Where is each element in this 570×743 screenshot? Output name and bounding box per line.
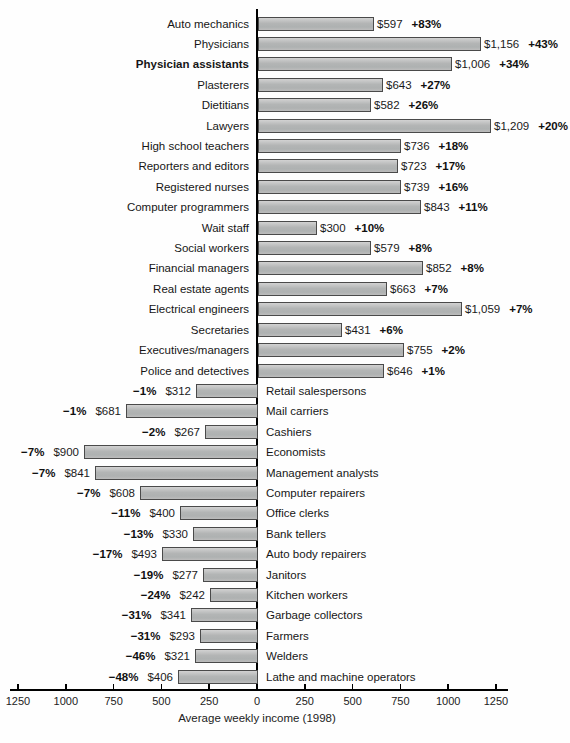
value-label: −11%$400	[111, 506, 175, 521]
income-value: $1,006	[455, 58, 490, 70]
axis-tick-label: 0	[235, 695, 279, 708]
income-value: $431	[345, 324, 371, 336]
axis-tick	[113, 684, 115, 689]
bar	[258, 119, 491, 133]
chart-row: Bank tellers−13%$330	[0, 527, 570, 542]
income-value: $1,156	[484, 38, 519, 50]
bar	[258, 78, 383, 92]
chart-row: Physicians$1,156+43%	[0, 37, 570, 52]
percent-change: +20%	[538, 120, 568, 132]
category-label: Reporters and editors	[138, 159, 249, 174]
value-label: −1%$312	[133, 384, 191, 399]
value-label: −2%$267	[142, 425, 200, 440]
chart-row: Computer programmers$843+11%	[0, 200, 570, 215]
percent-change: +7%	[509, 303, 532, 315]
income-value: $341	[160, 609, 186, 621]
chart-row: Mail carriers−1%$681	[0, 404, 570, 419]
percent-change: +11%	[459, 201, 488, 213]
chart-row: Reporters and editors$723+17%	[0, 159, 570, 174]
category-label: Bank tellers	[266, 527, 326, 542]
percent-change: +8%	[409, 242, 432, 254]
chart-row: Kitchen workers−24%$242	[0, 588, 570, 603]
chart-row: Cashiers−2%$267	[0, 425, 570, 440]
category-label: Auto mechanics	[167, 17, 249, 32]
bar	[258, 98, 371, 112]
value-label: $646+1%	[387, 364, 445, 379]
bar	[205, 425, 258, 439]
axis-tick-label: 1250	[474, 695, 518, 708]
income-value: $597	[377, 18, 403, 30]
category-label: Welders	[266, 649, 308, 664]
percent-change: −24%	[141, 589, 171, 601]
axis-tick-label: 750	[92, 695, 136, 708]
income-value: $843	[424, 201, 450, 213]
chart-row: Retail salespersons−1%$312	[0, 384, 570, 399]
chart-row: Auto body repairers−17%$493	[0, 547, 570, 562]
income-value: $723	[401, 160, 427, 172]
value-label: $597+83%	[377, 17, 441, 32]
percent-change: +43%	[528, 38, 558, 50]
income-value: $681	[95, 405, 121, 417]
chart-row: Police and detectives$646+1%	[0, 364, 570, 379]
axis-tick-label: 500	[139, 695, 183, 708]
value-label: −17%$493	[93, 547, 157, 562]
percent-change: −7%	[77, 487, 100, 499]
bar	[178, 670, 258, 684]
bar	[258, 364, 384, 378]
bar	[200, 629, 258, 643]
bar	[193, 527, 258, 541]
income-value: $739	[404, 181, 430, 193]
axis-tick-label: 250	[283, 695, 327, 708]
axis-tick-label: 1000	[426, 695, 470, 708]
category-label: Police and detectives	[140, 364, 249, 379]
category-label: Financial managers	[149, 261, 249, 276]
value-label: $663+7%	[390, 282, 448, 297]
percent-change: −1%	[63, 405, 86, 417]
income-value: $1,209	[494, 120, 529, 132]
income-value: $300	[320, 222, 346, 234]
category-label: Janitors	[266, 568, 306, 583]
category-label: Retail salespersons	[266, 384, 366, 399]
value-label: −19%$277	[134, 568, 198, 583]
income-value: $406	[147, 671, 173, 683]
axis-tick-label: 500	[331, 695, 375, 708]
chart-row: Wait staff$300+10%	[0, 221, 570, 236]
percent-change: +10%	[355, 222, 385, 234]
value-label: −1%$681	[63, 404, 121, 419]
chart-row: Social workers$579+8%	[0, 241, 570, 256]
value-label: −7%$900	[21, 445, 79, 460]
value-label: $755+2%	[407, 343, 465, 358]
axis-tick	[400, 684, 402, 689]
bar	[258, 261, 423, 275]
value-label: $1,156+43%	[484, 37, 558, 52]
category-label: Executives/managers	[139, 343, 249, 358]
chart-row: Lawyers$1,209+20%	[0, 119, 570, 134]
bar	[258, 159, 398, 173]
chart-row: Secretaries$431+6%	[0, 323, 570, 338]
category-label: Real estate agents	[153, 282, 249, 297]
value-label: $300+10%	[320, 221, 384, 236]
category-label: Farmers	[266, 629, 309, 644]
percent-change: −2%	[142, 426, 165, 438]
axis-tick-label: 1250	[0, 695, 40, 708]
percent-change: −31%	[122, 609, 152, 621]
chart-row: Economists−7%$900	[0, 445, 570, 460]
category-label: Cashiers	[266, 425, 311, 440]
bar	[258, 282, 387, 296]
chart-row: Electrical engineers$1,059+7%	[0, 302, 570, 317]
percent-change: −17%	[93, 548, 123, 560]
percent-change: +16%	[439, 181, 469, 193]
percent-change: +26%	[409, 99, 439, 111]
axis-tick-label: 750	[378, 695, 422, 708]
axis-tick-label: 1000	[44, 695, 88, 708]
bar	[258, 241, 371, 255]
value-label: −48%$406	[109, 670, 173, 685]
axis-tick	[495, 684, 497, 689]
percent-change: −7%	[32, 467, 55, 479]
value-label: $579+8%	[374, 241, 432, 256]
chart-row: Management analysts−7%$841	[0, 466, 570, 481]
income-value: $493	[131, 548, 157, 560]
bar	[126, 404, 258, 418]
category-label: Management analysts	[266, 466, 379, 481]
chart-row: Welders−46%$321	[0, 649, 570, 664]
